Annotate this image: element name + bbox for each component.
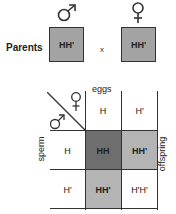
egg-allele-label: H — [100, 106, 107, 116]
male-symbol-icon — [56, 3, 80, 23]
sperm-allele-label: H — [64, 146, 71, 156]
offspring-cell-HH-prime: HH' — [121, 131, 158, 170]
sperm-allele-2: H' — [50, 170, 85, 209]
egg-allele-label: H' — [135, 106, 143, 116]
male-parent-box: HH' — [49, 27, 84, 62]
offspring-genotype: HH — [97, 146, 110, 156]
female-symbol-icon — [70, 91, 84, 113]
offspring-genotype: HH' — [132, 146, 147, 156]
grid-line — [50, 208, 158, 209]
male-symbol-icon — [48, 113, 68, 131]
egg-allele-1: H — [85, 91, 121, 131]
sperm-allele-label: H' — [63, 185, 71, 195]
grid-line — [50, 130, 158, 131]
offspring-label: offspring — [157, 137, 167, 171]
female-parent-box: HH' — [121, 27, 156, 62]
grid-line — [85, 91, 86, 210]
offspring-genotype: H'H' — [131, 185, 147, 195]
egg-allele-2: H' — [121, 91, 158, 131]
grid-line — [121, 91, 122, 210]
sperm-allele-1: H — [50, 131, 85, 170]
female-symbol-icon — [130, 1, 146, 25]
offspring-cell-H-prime-H-prime: H'H' — [121, 170, 158, 209]
female-parent-genotype: HH' — [131, 40, 146, 50]
offspring-cell-HH: HH — [85, 131, 121, 170]
offspring-cell-HH-prime: HH' — [85, 170, 121, 209]
parents-label: Parents — [6, 42, 43, 53]
sperm-label: sperm — [36, 136, 46, 161]
male-parent-genotype: HH' — [59, 40, 74, 50]
offspring-genotype: HH' — [95, 185, 110, 195]
cross-sign: x — [100, 45, 104, 54]
grid-line — [50, 169, 158, 170]
